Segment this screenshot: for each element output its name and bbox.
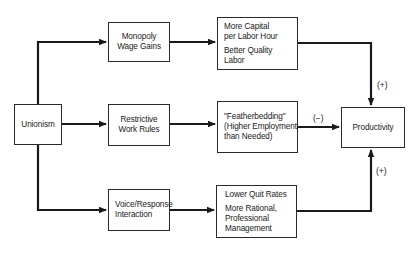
box-text: Wage Gains [117, 42, 161, 52]
box-text: "Featherbedding" [224, 112, 297, 122]
sign-negative-middle: (−) [313, 113, 324, 123]
sign-positive-bottom: (+) [376, 166, 387, 176]
unionism-box: Unionism [14, 104, 62, 145]
sign-positive-top: (+) [377, 80, 388, 90]
quit-management-box: Lower Quit Rates More Rational, Professi… [216, 185, 297, 238]
productivity-label: Productivity [352, 123, 393, 133]
box-text: Voice/Response [115, 200, 169, 210]
featherbedding-box: "Featherbedding" (Higher Employment than… [217, 101, 298, 153]
box-text: per Labor Hour [224, 32, 297, 42]
unionism-label: Unionism [21, 120, 54, 130]
box-text: Professional [225, 214, 296, 224]
voice-response-box: Voice/Response Interaction [108, 189, 170, 231]
monopoly-wage-gains-box: Monopoly Wage Gains [108, 22, 170, 62]
box-text: More Capital [224, 22, 297, 32]
box-text: Interaction [115, 210, 169, 220]
box-text: Management [225, 224, 296, 234]
box-text: (Higher Employment [224, 122, 297, 132]
box-text: Work Rules [118, 125, 159, 135]
box-text: Lower Quit Rates [225, 190, 296, 200]
box-text: Labor [224, 56, 297, 66]
box-text: Restrictive [120, 115, 157, 125]
box-text: More Rational, [225, 204, 296, 214]
productivity-box: Productivity [341, 107, 405, 148]
box-text: Monopoly [122, 32, 157, 42]
capital-quality-box: More Capital per Labor Hour Better Quali… [217, 17, 298, 70]
restrictive-work-rules-box: Restrictive Work Rules [108, 104, 170, 146]
box-text: Better Quality [224, 46, 297, 56]
box-text: than Needed) [224, 132, 297, 142]
